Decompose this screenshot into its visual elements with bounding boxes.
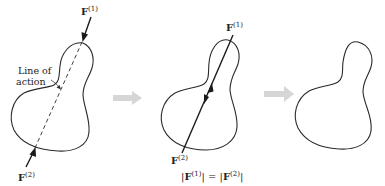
line-of-action-label-line2: action [16,76,46,87]
force-1-label: F(1) [226,21,243,33]
transition-arrow-1-head-icon [132,91,142,105]
transition-arrow-2 [264,86,294,102]
panel-1: F(1) F(2) Line of action [11,5,98,183]
body-outline-3 [295,42,372,149]
body-outline-2 [161,40,239,150]
force-2-label: F(2) [18,171,35,183]
line-of-action-label-line1: Line of [18,65,53,76]
transition-arrow-1-shaft [113,95,133,101]
line-of-action-dashed [35,42,82,148]
panel-3 [295,42,372,149]
transition-arrow-2-shaft [264,91,285,97]
force-1-arrow-shaft [85,17,91,34]
line-of-action-solid [182,35,233,153]
magnitude-equation: |F(1)| = |F(2)| [181,170,243,183]
force-2-label: F(2) [171,154,188,166]
transition-arrow-1 [113,91,142,105]
transition-arrow-2-head-icon [284,86,294,102]
internal-arrowhead-up-icon [208,83,214,93]
internal-arrowhead-down-icon [204,94,209,104]
annotation-leader-arrowhead-icon [57,85,62,90]
force-2-arrow-shaft [26,155,32,167]
force-1-arrowhead-icon [82,32,89,42]
panel-2: F(1) F(2) |F(1)| = |F(2)| [161,21,243,183]
force-1-label: F(1) [81,5,98,17]
force-2-arrowhead-icon [30,147,37,157]
two-force-equilibrium-figure: F(1) F(2) Line of action F(1) F(2) |F(1)… [0,0,385,186]
body-outline-1 [11,43,93,151]
